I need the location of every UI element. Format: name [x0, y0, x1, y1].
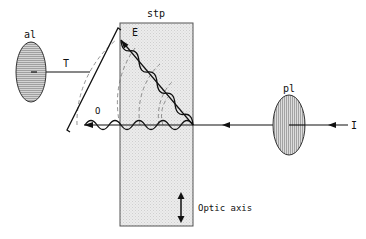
analyzer-label: al — [24, 29, 36, 40]
incident-label: I — [351, 120, 357, 131]
diagram-canvas: stp I O E T al — [0, 0, 366, 239]
plate: stp — [120, 8, 193, 226]
analyzer: al — [16, 29, 46, 102]
ordinary-label: O — [95, 106, 100, 116]
transmitted-label: T — [63, 58, 69, 69]
slit-screen — [67, 28, 121, 132]
extraordinary-label: E — [132, 27, 138, 38]
polarizer: pl — [273, 83, 305, 155]
plate-label: stp — [147, 8, 165, 19]
optic-axis-label: Optic axis — [198, 203, 252, 213]
polarizer-label: pl — [283, 83, 295, 94]
